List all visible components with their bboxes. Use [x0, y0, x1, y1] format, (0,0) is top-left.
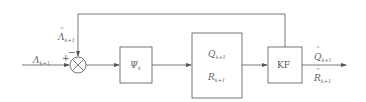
q-hat: ^ — [316, 45, 320, 51]
r-hat-label: Rk+1 — [313, 73, 331, 84]
feedback-line — [78, 14, 285, 56]
kf-label: KF — [277, 60, 290, 70]
feedback-label: Λk+1 — [57, 32, 75, 43]
minus-sign: − — [68, 47, 76, 57]
input-label: Λk+1 — [32, 55, 50, 66]
feedback-hat: ^ — [60, 26, 64, 32]
summing-junction — [70, 57, 86, 73]
block-diagram: Λk+1 + − Λk+1 ^ Ψk Qk+1 Rk+1 KF ^ Qk+1 ^… — [0, 0, 366, 102]
qr-block — [192, 33, 242, 98]
q-hat-label: Qk+1 — [314, 52, 332, 63]
